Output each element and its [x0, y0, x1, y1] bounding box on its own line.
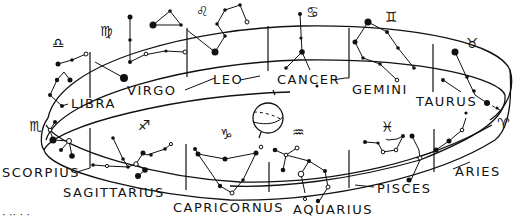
- capricornus-symbol: ♑: [220, 126, 233, 142]
- zodiac-diagram: ♎ ♍ ♌ ♋ ♊ ♉ ♈ ♏ ♐ ♑ ♒ ♓ LIBRA VIRGO LEO …: [0, 0, 517, 223]
- virgo-symbol: ♍: [100, 23, 113, 39]
- label-taurus: TAURUS: [415, 94, 477, 109]
- aries-symbol: ♈: [497, 115, 510, 131]
- scorpius-symbol: ♏: [29, 118, 42, 134]
- earth-globe: [253, 90, 283, 138]
- label-aquarius: AQUARIUS: [293, 202, 373, 217]
- label-capricornus: CAPRICORNUS: [173, 200, 284, 215]
- label-virgo: VIRGO: [127, 83, 177, 98]
- pisces-symbol: ♓: [381, 119, 394, 135]
- label-scorpius: SCORPIUS: [2, 165, 80, 180]
- label-leo: LEO: [213, 72, 243, 87]
- label-libra: LIBRA: [71, 96, 116, 111]
- libra-symbol: ♎: [52, 35, 65, 51]
- label-sagittarius: SAGITTARIUS: [63, 185, 165, 200]
- caption-fragment: · ·· · ·: [2, 208, 30, 221]
- cancer-symbol: ♋: [306, 4, 319, 20]
- sagittarius-symbol: ♐: [138, 117, 151, 133]
- label-cancer: CANCER: [277, 72, 340, 87]
- label-pisces: PISCES: [377, 181, 431, 196]
- aquarius-symbol: ♒: [292, 124, 305, 140]
- gemini-symbol: ♊: [385, 9, 398, 25]
- leo-symbol: ♌: [196, 3, 209, 19]
- label-aries: ARIES: [455, 164, 501, 179]
- taurus-symbol: ♉: [466, 35, 479, 51]
- label-gemini: GEMINI: [352, 82, 408, 97]
